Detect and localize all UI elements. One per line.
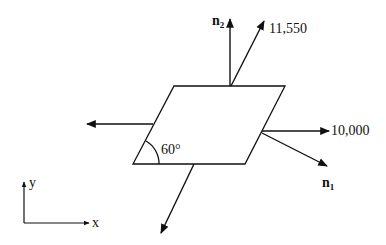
- label-n2-sub: 2: [220, 20, 225, 30]
- label-axis-y: y: [29, 176, 36, 190]
- label-angle: 60°: [161, 143, 181, 157]
- normal-vector-n1: [262, 133, 327, 166]
- label-force-11550: 11,550: [269, 22, 307, 36]
- label-n1-main: n: [322, 175, 330, 190]
- label-n2-main: n: [212, 13, 220, 28]
- label-axis-x: x: [92, 216, 99, 230]
- stress-diagram: [0, 0, 386, 245]
- label-n2: n2: [212, 14, 224, 30]
- label-n1-sub: 1: [330, 182, 335, 192]
- label-n1: n1: [322, 176, 334, 192]
- label-force-10000: 10,000: [331, 124, 370, 138]
- force-arrow-down: [161, 164, 194, 233]
- force-arrow-11550: [231, 21, 264, 86]
- angle-arc: [146, 141, 159, 164]
